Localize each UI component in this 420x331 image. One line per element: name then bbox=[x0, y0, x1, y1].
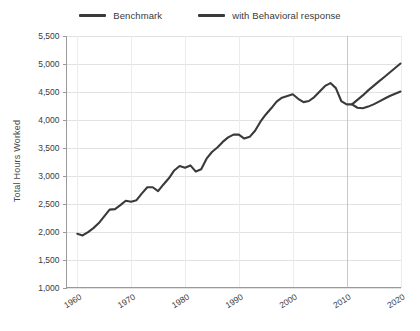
y-tick-label: 4,500 bbox=[38, 87, 60, 97]
x-tick-label: 1990 bbox=[224, 292, 246, 311]
y-tick-label: 1,000 bbox=[38, 283, 60, 293]
y-tick-label: 3,500 bbox=[38, 143, 60, 153]
plot-area: 1,0001,5002,0002,5003,0003,5004,0004,500… bbox=[0, 0, 420, 331]
horizontal-gridlines bbox=[67, 37, 401, 289]
x-tick-label: 2000 bbox=[277, 292, 299, 311]
tick-marks bbox=[63, 37, 67, 289]
series-line-behavioral bbox=[352, 92, 400, 109]
y-tick-label: 2,500 bbox=[38, 199, 60, 209]
y-tick-label: 5,000 bbox=[38, 59, 60, 69]
series-line-benchmark bbox=[77, 64, 400, 236]
y-tick-label: 4,000 bbox=[38, 115, 60, 125]
y-tick-labels: 1,0001,5002,0002,5003,0003,5004,0004,500… bbox=[38, 31, 60, 293]
x-tick-label: 2010 bbox=[331, 292, 353, 311]
vertical-gridlines bbox=[78, 36, 402, 288]
x-tick-labels: 1960197019801990200020102020 bbox=[62, 292, 407, 311]
x-tick-label: 2020 bbox=[385, 292, 407, 311]
y-tick-label: 5,500 bbox=[38, 31, 60, 41]
data-series bbox=[77, 64, 400, 236]
y-tick-label: 2,000 bbox=[38, 227, 60, 237]
x-tick-label: 1960 bbox=[62, 292, 84, 311]
y-tick-label: 1,500 bbox=[38, 255, 60, 265]
axis-lines bbox=[67, 36, 401, 288]
x-tick-label: 1980 bbox=[170, 292, 192, 311]
line-chart: Benchmark with Behavioral response Total… bbox=[0, 0, 420, 331]
x-tick-label: 1970 bbox=[116, 292, 138, 311]
y-tick-label: 3,000 bbox=[38, 171, 60, 181]
